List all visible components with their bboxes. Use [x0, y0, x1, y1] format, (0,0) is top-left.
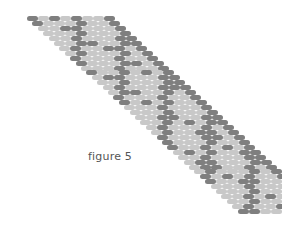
bead [76, 51, 87, 56]
bead [206, 150, 217, 155]
bead [250, 160, 261, 165]
bead [131, 61, 142, 66]
bead [249, 209, 260, 214]
bead [109, 61, 120, 66]
bead [87, 61, 98, 66]
bead [195, 160, 206, 165]
bead [81, 46, 92, 51]
bead [200, 145, 211, 150]
bead [125, 56, 136, 61]
bead [233, 145, 244, 150]
bead [147, 56, 158, 61]
bead [184, 150, 195, 155]
bead [153, 61, 164, 66]
bead [103, 56, 114, 61]
bead [178, 145, 189, 150]
bead [131, 51, 142, 56]
bead [200, 155, 211, 160]
bead [206, 160, 217, 165]
bead [184, 160, 195, 165]
bead [70, 56, 81, 61]
bead [65, 51, 76, 56]
bead [76, 61, 87, 66]
bead [98, 61, 109, 66]
bead [142, 51, 153, 56]
bead [120, 61, 131, 66]
bead [255, 155, 266, 160]
bead [125, 46, 136, 51]
bead [228, 150, 239, 155]
bead-pattern [0, 0, 282, 225]
bead [239, 160, 250, 165]
bead [217, 160, 228, 165]
bead [244, 145, 255, 150]
bead [142, 61, 153, 66]
bead [114, 56, 125, 61]
bead [261, 160, 272, 165]
bead [59, 46, 70, 51]
bead [233, 155, 244, 160]
bead [173, 150, 184, 155]
bead [178, 155, 189, 160]
bead [136, 56, 147, 61]
bead [87, 51, 98, 56]
bead [222, 155, 233, 160]
bead [211, 155, 222, 160]
bead [239, 150, 250, 155]
bead [238, 209, 249, 214]
bead [228, 160, 239, 165]
bead [167, 145, 178, 150]
figure-caption: figure 5 [88, 150, 132, 163]
bead [103, 46, 114, 51]
bead [222, 145, 233, 150]
bead [217, 150, 228, 155]
bead [70, 46, 81, 51]
bead [195, 150, 206, 155]
bead [244, 155, 255, 160]
bead [92, 56, 103, 61]
bead [109, 51, 120, 56]
bead [92, 46, 103, 51]
bead [114, 46, 125, 51]
bead [260, 209, 271, 214]
bead [120, 51, 131, 56]
bead [189, 145, 200, 150]
bead [211, 145, 222, 150]
bead [81, 56, 92, 61]
bead [250, 150, 261, 155]
bead [136, 46, 147, 51]
bead [271, 209, 282, 214]
bead [98, 51, 109, 56]
bead [189, 155, 200, 160]
